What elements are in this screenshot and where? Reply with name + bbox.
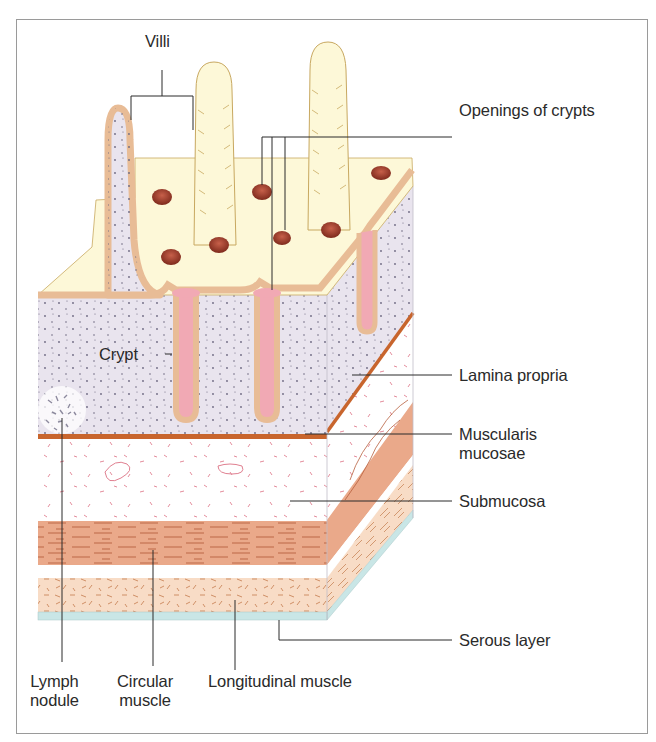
- label-circular-muscle: Circular muscle: [117, 672, 173, 710]
- label-submucosa: Submucosa: [459, 492, 545, 511]
- label-muscularis-mucosae-line2: mucosae: [459, 444, 537, 463]
- label-villi: Villi: [145, 32, 170, 51]
- label-muscularis-mucosae-line1: Muscularis: [459, 425, 537, 444]
- label-lymph-nodule: Lymph nodule: [30, 672, 79, 710]
- villus-1: [194, 62, 236, 245]
- label-muscularis-mucosae: Muscularis mucosae: [459, 425, 537, 463]
- muscularis-mucosae-layer: [38, 434, 327, 439]
- label-crypt: Crypt: [99, 345, 138, 364]
- crypt-side: [359, 230, 375, 332]
- label-circular-muscle-line1: Circular: [117, 672, 173, 691]
- label-openings-of-crypts: Openings of crypts: [459, 101, 595, 120]
- label-circular-muscle-line2: muscle: [117, 691, 173, 710]
- crypt-front-2: [253, 288, 281, 420]
- label-lymph-nodule-line2: nodule: [30, 691, 79, 710]
- label-lymph-nodule-line1: Lymph: [30, 672, 79, 691]
- label-serous-layer: Serous layer: [459, 631, 550, 650]
- label-lamina-propria: Lamina propria: [459, 366, 568, 385]
- villus-2: [308, 42, 350, 230]
- label-longitudinal-muscle: Longitudinal muscle: [208, 672, 352, 691]
- crypt-front-1: [172, 288, 200, 420]
- serous-layer: [38, 612, 327, 620]
